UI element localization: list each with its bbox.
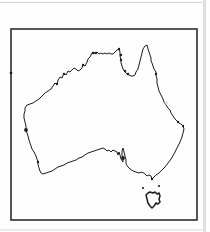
coastline-knot [120,59,122,61]
coastline-knot [127,73,129,75]
scanned-map-page [0,0,210,232]
scan-artifact-right [203,0,206,232]
australia-outline-map [0,0,210,232]
frame-border-speck [10,72,13,75]
scan-artifact-top [0,2,202,3]
coastline-knot [82,64,84,66]
coastline-knot [155,73,157,75]
coastline-knot [95,52,97,54]
island-dot [158,185,160,187]
coastline-knot [63,73,65,75]
coastline-knot [37,161,39,163]
coastline-knot [118,48,120,50]
scan-artifact-bottom [0,230,202,231]
coastline-blob [121,156,125,160]
coastline-knot [92,52,94,54]
scan-smudge [164,101,168,105]
coastline-knot [120,54,122,56]
coastline-knot [56,83,58,85]
coastline-knot [182,125,184,127]
coastline-knot [124,70,126,72]
island-dot [142,187,144,189]
coastline-blob [24,128,28,132]
coastline-knot [151,178,153,180]
coastline-knot [177,121,179,123]
